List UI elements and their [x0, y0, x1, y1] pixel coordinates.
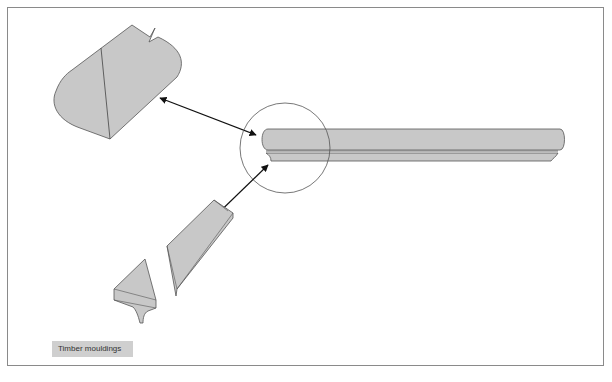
- moulding-strip: [262, 129, 565, 161]
- moulding-piece-small: [114, 259, 156, 323]
- diagram-caption: Timber mouldings: [52, 341, 133, 357]
- moulding-section-large: [54, 25, 181, 139]
- arrow-section-to-strip: [160, 98, 256, 135]
- moulding-diagram: [0, 0, 612, 382]
- moulding-piece-angled: [167, 200, 233, 296]
